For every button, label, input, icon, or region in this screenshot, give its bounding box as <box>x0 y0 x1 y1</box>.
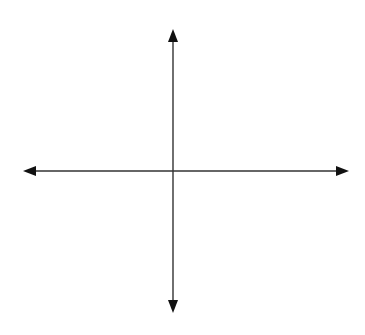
arrow-down-icon <box>168 300 178 313</box>
axes-diagram <box>0 0 365 335</box>
arrow-up-icon <box>168 29 178 42</box>
arrow-right-icon <box>336 166 349 176</box>
coordinate-plane <box>0 0 365 335</box>
arrow-left-icon <box>23 166 36 176</box>
